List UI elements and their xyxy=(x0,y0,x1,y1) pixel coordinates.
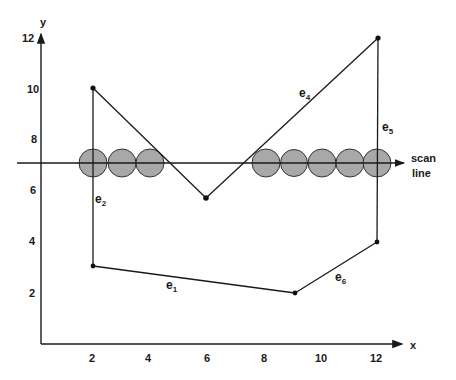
x-tick-12: 12 xyxy=(370,352,382,364)
vertex-point xyxy=(91,264,96,269)
x-tick-2: 2 xyxy=(89,352,95,364)
x-tick-6: 6 xyxy=(204,352,210,364)
edge-e5 xyxy=(377,38,378,242)
y-tick-6: 6 xyxy=(30,184,36,196)
vertex-point xyxy=(375,240,380,245)
edge-label-e2: e2 xyxy=(95,192,107,208)
edge-e6 xyxy=(295,242,377,293)
vertex-point xyxy=(203,195,209,201)
edge-label-e5: e5 xyxy=(382,120,394,136)
vertex-point xyxy=(90,85,95,90)
y-tick-2: 2 xyxy=(29,287,35,299)
diagram-canvas: y x 12 10 8 6 4 2 2 4 6 8 10 12 xyxy=(0,0,456,380)
vertex-point xyxy=(375,35,380,40)
x-axis-label: x xyxy=(410,339,417,351)
y-tick-4: 4 xyxy=(29,235,36,247)
y-tick-12: 12 xyxy=(22,32,34,44)
y-tick-10: 10 xyxy=(27,83,39,95)
scan-line-diagram: y x 12 10 8 6 4 2 2 4 6 8 10 12 xyxy=(0,0,456,380)
edge-e3 xyxy=(93,88,206,198)
x-tick-10: 10 xyxy=(315,352,327,364)
x-tick-4: 4 xyxy=(145,352,152,364)
scan-line-label-1: scan xyxy=(411,152,436,164)
x-tick-8: 8 xyxy=(261,352,267,364)
edge-e1 xyxy=(93,266,295,293)
edge-label-e1: e1 xyxy=(166,278,178,294)
y-tick-8: 8 xyxy=(31,133,37,145)
edge-label-e4: e4 xyxy=(299,86,311,102)
edge-label-e6: e6 xyxy=(335,270,347,286)
vertex-point xyxy=(293,291,298,296)
y-axis-label: y xyxy=(40,16,47,28)
scan-line-label-2: line xyxy=(412,167,431,179)
